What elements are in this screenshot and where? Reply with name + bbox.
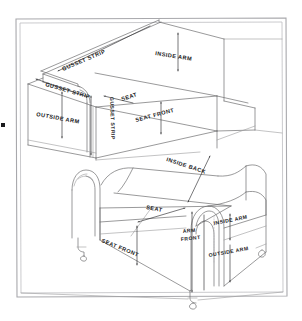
- diagram-canvas: GUSSET STRIP GUSSET STRIP INSIDE ARM OUT…: [0, 0, 302, 321]
- upholstery-parts-diagram: GUSSET STRIP GUSSET STRIP INSIDE ARM OUT…: [0, 0, 302, 321]
- page-background: [0, 0, 302, 321]
- registration-dot: [1, 123, 5, 127]
